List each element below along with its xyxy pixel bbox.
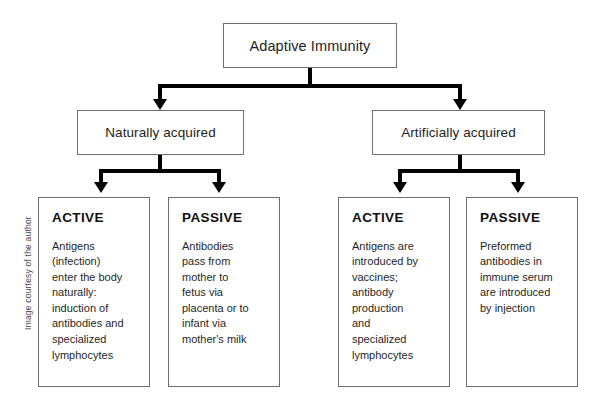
image-credit: Image courtesy of the author — [23, 193, 33, 353]
leaf-heading: ACTIVE — [352, 211, 438, 225]
node-natural-active: ACTIVE Antigens (infection) enter the bo… — [38, 197, 150, 387]
node-artificially-acquired: Artificially acquired — [372, 110, 545, 155]
connector-natural-bar — [99, 169, 221, 173]
arrowhead-artificial-passive — [511, 182, 525, 193]
node-naturally-acquired: Naturally acquired — [77, 110, 244, 155]
leaf-heading: PASSIVE — [182, 211, 268, 225]
connector-artificial-bar — [398, 169, 520, 173]
leaf-body: Preformed antibodies in immune serum are… — [480, 239, 566, 317]
arrowhead-naturally-acquired — [153, 99, 167, 110]
arrowhead-natural-passive — [212, 182, 226, 193]
node-label: Adaptive Immunity — [250, 38, 371, 54]
leaf-body: Antibodies pass from mother to fetus via… — [182, 239, 268, 348]
leaf-body: Antigens (infection) enter the body natu… — [52, 239, 138, 364]
arrowhead-artificially-acquired — [453, 99, 467, 110]
leaf-body: Antigens are introduced by vaccines; ant… — [352, 239, 438, 364]
node-artificial-passive: PASSIVE Preformed antibodies in immune s… — [466, 197, 578, 387]
arrowhead-artificial-active — [393, 182, 407, 193]
leaf-heading: ACTIVE — [52, 211, 138, 225]
diagram-canvas: Adaptive Immunity Naturally acquired Art… — [0, 0, 596, 410]
leaf-heading: PASSIVE — [480, 211, 566, 225]
node-adaptive-immunity: Adaptive Immunity — [223, 23, 397, 68]
node-label: Naturally acquired — [105, 125, 216, 140]
node-natural-passive: PASSIVE Antibodies pass from mother to f… — [168, 197, 280, 387]
node-artificial-active: ACTIVE Antigens are introduced by vaccin… — [338, 197, 450, 387]
node-label: Artificially acquired — [401, 125, 516, 140]
arrowhead-natural-active — [94, 182, 108, 193]
connector-root-bar — [158, 84, 462, 88]
